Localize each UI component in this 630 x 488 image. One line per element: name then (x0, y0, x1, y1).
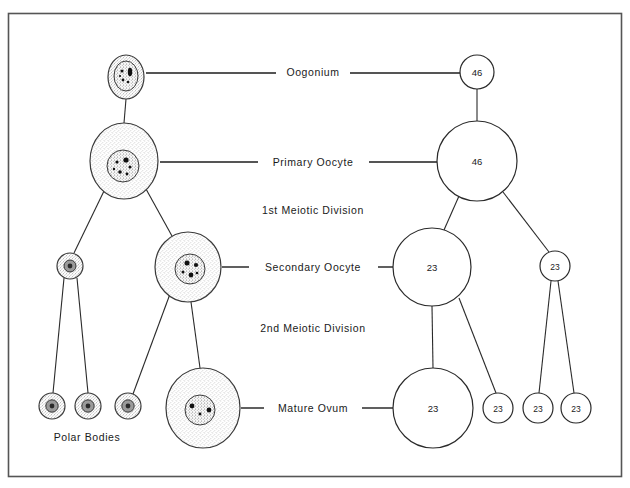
cell-oogonium (108, 55, 144, 99)
chromosome-circle-oogonium: 46 (460, 55, 494, 89)
chromosome-count-secondary-oocyte: 23 (427, 262, 438, 273)
oogenesis-figure: 46 46 23 23 23 23 23 23 (0, 0, 630, 488)
chromosome-count-oogonium: 46 (472, 67, 483, 78)
label-primary-oocyte: Primary Oocyte (273, 156, 354, 168)
chromosome-circle-polar-body-b: 23 (523, 393, 553, 423)
cell-polar-body-2 (75, 393, 101, 419)
chromosome-circle-first-polar-body: 23 (540, 251, 570, 281)
link-first-polar-to-polar-2 (77, 278, 88, 393)
chromosome-count-mature-ovum: 23 (428, 403, 439, 414)
cell-mature-ovum (166, 368, 240, 448)
chromosome-count-primary-oocyte: 46 (472, 156, 483, 167)
link-first-polar-to-polar-1 (53, 278, 64, 393)
link-chrom-secondary-to-polar (459, 298, 496, 393)
cell-secondary-oocyte (155, 232, 221, 302)
link-oogonium-to-primary (124, 99, 126, 123)
link-chrom-primary-to-secondary (444, 196, 459, 230)
link-secondary-to-ovum (191, 302, 200, 368)
chromosome-circle-polar-body-c: 23 (561, 393, 591, 423)
link-chrom-primary-to-polar (503, 192, 549, 252)
cell-polar-body-3 (115, 393, 141, 419)
label-oogonium: Oogonium (286, 66, 339, 78)
chromosome-circle-primary-oocyte: 46 (437, 121, 517, 201)
cell-polar-body-first (57, 253, 83, 279)
chromosome-count-first-polar-body: 23 (550, 262, 560, 272)
cell-polar-body-1 (39, 393, 65, 419)
label-second-meiotic-division: 2nd Meiotic Division (260, 322, 365, 334)
link-chrom-polar-to-polar-b (539, 281, 551, 393)
chromosome-count-polar-body-c: 23 (571, 404, 581, 414)
chromosome-count-polar-body-b: 23 (533, 404, 543, 414)
link-chrom-secondary-to-ovum (432, 306, 433, 368)
chromosome-circle-mature-ovum: 23 (393, 368, 473, 448)
oogenesis-diagram: 46 46 23 23 23 23 23 23 (0, 0, 630, 488)
link-secondary-to-polar-3 (133, 294, 170, 394)
link-primary-to-secondary (146, 189, 172, 236)
label-mature-ovum: Mature Ovum (278, 402, 348, 414)
label-polar-bodies: Polar Bodies (54, 431, 121, 443)
chromosome-circle-polar-body-a: 23 (483, 393, 513, 423)
cell-primary-oocyte (90, 123, 158, 199)
link-chrom-polar-to-polar-c (558, 281, 574, 393)
link-primary-to-first-polar-body (74, 191, 104, 253)
chromosome-count-polar-body-a: 23 (493, 404, 503, 414)
chromosome-circle-secondary-oocyte: 23 (393, 228, 471, 306)
label-secondary-oocyte: Secondary Oocyte (265, 261, 361, 273)
label-first-meiotic-division: 1st Meiotic Division (262, 204, 364, 216)
